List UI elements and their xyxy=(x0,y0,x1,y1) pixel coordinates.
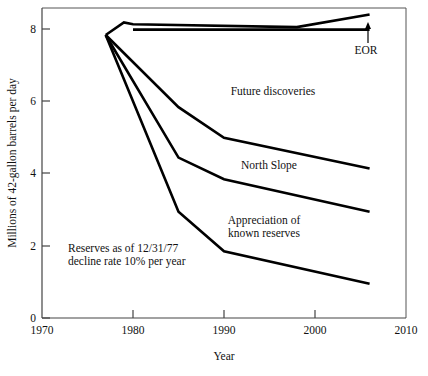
x-tick-label-2010: 2010 xyxy=(395,324,418,336)
y-tick-labels: 8 6 4 2 0 xyxy=(30,23,36,324)
y-tick-label-6: 6 xyxy=(30,95,36,107)
y-axis-ticks xyxy=(42,29,50,318)
annotation-north-slope: North Slope xyxy=(241,159,297,172)
chart-annotations: EOR Future discoveries North Slope Appre… xyxy=(68,44,378,268)
x-tick-label-1970: 1970 xyxy=(31,324,54,336)
annotation-eor: EOR xyxy=(355,44,378,56)
x-axis-ticks xyxy=(133,310,315,318)
x-tick-label-2000: 2000 xyxy=(304,324,327,336)
y-axis-title: Millions of 42-gallon barrels per day xyxy=(6,78,19,248)
y-tick-label-8: 8 xyxy=(30,23,36,35)
y-tick-label-2: 2 xyxy=(30,240,36,252)
x-tick-label-1980: 1980 xyxy=(122,324,145,336)
annotation-future-discoveries: Future discoveries xyxy=(231,85,316,97)
annotation-reserves-line-2: decline rate 10% per year xyxy=(68,255,186,268)
oil-production-projection-chart: 8 6 4 2 0 1970 1980 1990 2000 2010 Year … xyxy=(0,0,428,376)
y-tick-label-0: 0 xyxy=(30,312,36,324)
eor-arrow-icon xyxy=(365,22,371,43)
x-tick-labels: 1970 1980 1990 2000 2010 xyxy=(31,324,418,336)
series-line-3 xyxy=(106,35,370,212)
chart-figure: 8 6 4 2 0 1970 1980 1990 2000 2010 Year … xyxy=(0,0,428,376)
y-tick-label-4: 4 xyxy=(30,167,36,179)
x-tick-label-1990: 1990 xyxy=(213,324,236,336)
annotation-reserves-line-1: Reserves as of 12/31/77 xyxy=(68,242,178,254)
plot-frame xyxy=(42,8,406,318)
annotation-appreciation-line-2: known reserves xyxy=(228,227,300,239)
annotation-appreciation-line-1: Appreciation of xyxy=(228,214,301,227)
x-axis-title: Year xyxy=(213,350,234,362)
series-line-0 xyxy=(106,14,370,35)
